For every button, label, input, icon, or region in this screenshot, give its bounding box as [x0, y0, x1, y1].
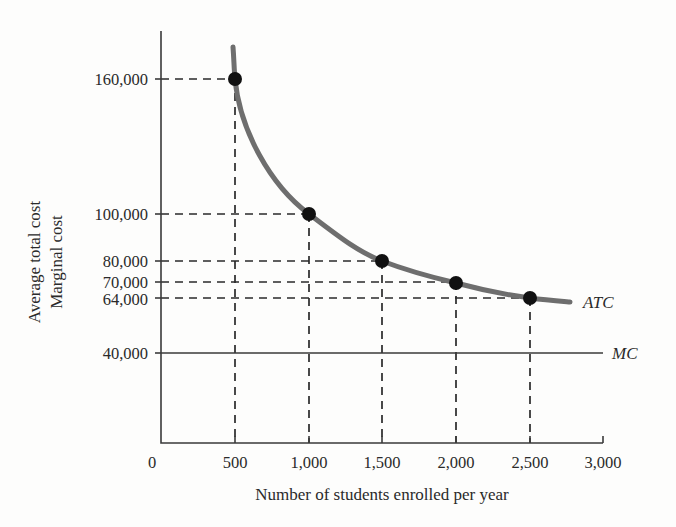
y-tick-label-64000: 64,000 [103, 290, 148, 309]
y-axis-ticks [155, 79, 161, 353]
atc-curve-label: ATC [582, 293, 614, 312]
horizontal-guide-lines [161, 79, 530, 298]
x-axis-ticks [235, 436, 603, 443]
cost-curves-chart: 160,000 100,000 80,000 70,000 64,000 40,… [0, 0, 676, 527]
x-axis-tick-labels: 0 500 1,000 1,500 2,000 2,500 3,000 [148, 453, 622, 472]
data-point-2500-64000 [523, 291, 537, 305]
axis-lines [161, 31, 603, 443]
data-point-500-160000 [228, 72, 242, 86]
y-tick-label-100000: 100,000 [94, 205, 148, 224]
x-tick-label-1000: 1,000 [290, 453, 327, 472]
y-tick-label-40000: 40,000 [103, 344, 148, 363]
x-tick-label-1500: 1,500 [363, 453, 400, 472]
x-axis-title: Number of students enrolled per year [255, 485, 509, 504]
data-point-2000-70000 [449, 276, 463, 290]
data-point-1500-80000 [375, 254, 389, 268]
data-point-markers [228, 72, 537, 305]
data-point-1000-100000 [302, 207, 316, 221]
y-axis-title-line2: Marginal cost [47, 215, 66, 309]
y-tick-label-80000: 80,000 [103, 252, 148, 271]
y-axis-tick-labels: 160,000 100,000 80,000 70,000 64,000 40,… [94, 70, 148, 363]
x-tick-label-500: 500 [223, 453, 248, 472]
y-axis-title-line1: Average total cost [25, 201, 44, 324]
x-tick-label-2500: 2,500 [511, 453, 548, 472]
y-tick-label-160000: 160,000 [94, 70, 148, 89]
mc-curve-label: MC [611, 344, 638, 363]
x-tick-label-2000: 2,000 [437, 453, 474, 472]
figure-container: 160,000 100,000 80,000 70,000 64,000 40,… [0, 0, 676, 527]
x-tick-label-3000: 3,000 [584, 453, 621, 472]
atc-curve [233, 47, 570, 302]
x-tick-label-0: 0 [148, 453, 156, 472]
